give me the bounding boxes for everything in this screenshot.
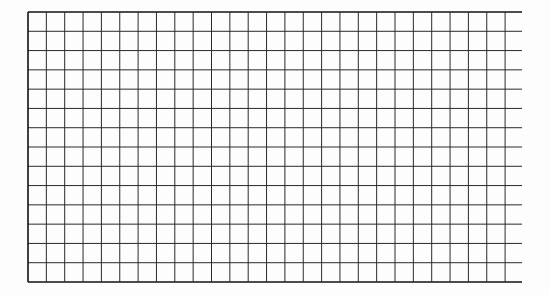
grid-paper — [0, 0, 550, 295]
